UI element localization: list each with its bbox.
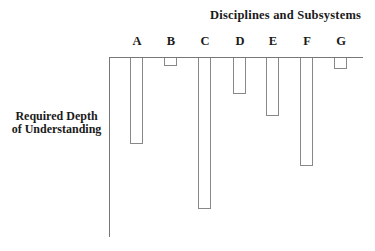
category-label-e: E	[263, 34, 283, 49]
bar-b	[164, 58, 177, 66]
category-label-c: C	[195, 34, 215, 49]
chart-title: Disciplines and Subsystems	[210, 8, 361, 23]
bar-c	[198, 58, 211, 209]
category-label-d: D	[230, 34, 250, 49]
category-label-b: B	[161, 34, 181, 49]
left-axis	[109, 57, 110, 237]
y-axis-label: Required Depth of Understanding	[4, 110, 109, 136]
category-label-a: A	[127, 34, 147, 49]
bar-e	[266, 58, 279, 116]
bar-a	[130, 58, 143, 144]
bar-g	[334, 58, 347, 69]
bar-f	[300, 58, 313, 166]
category-label-g: G	[331, 34, 351, 49]
y-axis-label-line2: of Understanding	[4, 123, 109, 136]
category-label-f: F	[297, 34, 317, 49]
bar-d	[233, 58, 246, 94]
